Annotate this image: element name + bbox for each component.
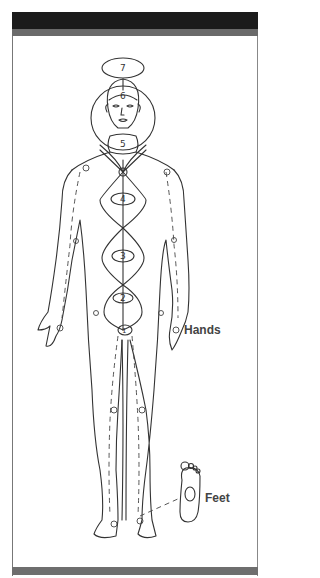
chakra-5-number: 5 bbox=[120, 139, 126, 149]
minor-chakra bbox=[94, 311, 99, 316]
hands-label: Hands bbox=[184, 323, 221, 337]
minor-chakra-knee bbox=[111, 407, 117, 413]
chakra-2-number: 2 bbox=[120, 293, 126, 303]
minor-chakra bbox=[83, 165, 89, 171]
chakra-4-number: 4 bbox=[120, 194, 126, 204]
chakra-1-number: 1 bbox=[122, 327, 126, 335]
chakra-3-number: 3 bbox=[120, 251, 126, 261]
foot-sole-illustration bbox=[180, 462, 200, 522]
minor-chakra-hand bbox=[173, 327, 179, 333]
minor-chakra-foot bbox=[111, 521, 117, 527]
feet-label: Feet bbox=[205, 491, 230, 505]
chakra-6-number: 6 bbox=[120, 91, 126, 101]
chakra-7-number: 7 bbox=[120, 63, 126, 73]
minor-chakra-knee bbox=[139, 407, 145, 413]
minor-chakra bbox=[164, 169, 170, 175]
